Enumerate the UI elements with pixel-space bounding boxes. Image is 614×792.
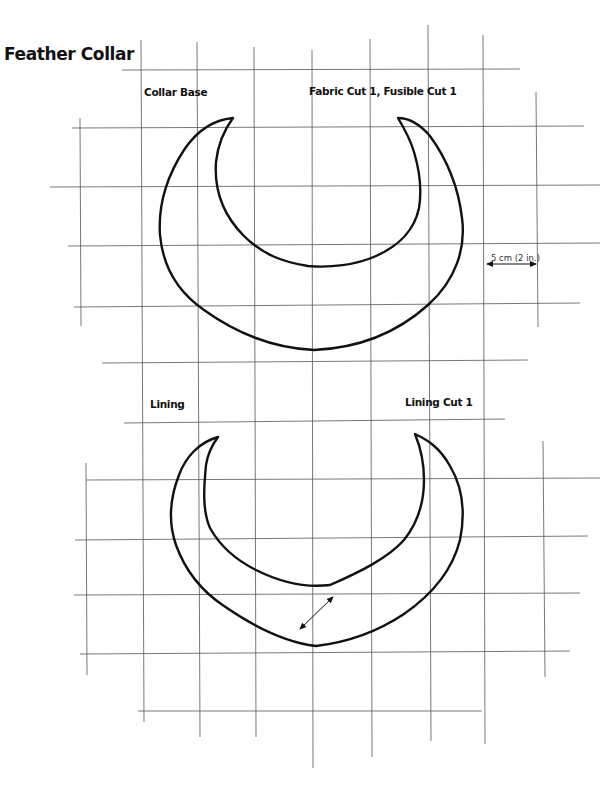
- grid-line: [543, 441, 545, 677]
- grid-line: [86, 478, 600, 480]
- grid-line: [86, 463, 87, 675]
- piece-name-lining: Lining: [150, 398, 185, 410]
- lower-grid: [74, 419, 600, 711]
- scale-label: 5 cm (2 in.): [491, 253, 540, 263]
- grid-line: [483, 35, 485, 744]
- cut-instructions-lining: Lining Cut 1: [405, 396, 473, 408]
- pattern-canvas: 5 cm (2 in.): [0, 0, 614, 792]
- lining-outline: [171, 434, 463, 646]
- grid-line: [254, 47, 256, 737]
- grid-line: [75, 536, 588, 540]
- grid-line: [141, 40, 144, 722]
- piece-name-collar-base: Collar Base: [144, 86, 207, 98]
- grid-line: [68, 243, 600, 246]
- scale-indicator: 5 cm (2 in.): [487, 253, 540, 264]
- grid-line: [50, 185, 600, 187]
- grid-line: [536, 92, 538, 327]
- collar-base-outline: [160, 118, 463, 350]
- grid-line: [102, 360, 528, 363]
- cut-instructions-collar-base: Fabric Cut 1, Fusible Cut 1: [309, 85, 457, 97]
- grid-line: [122, 69, 520, 70]
- grid-line: [80, 651, 570, 654]
- grid-line: [72, 126, 584, 128]
- grid-line: [80, 118, 81, 326]
- grid-line: [428, 25, 431, 741]
- grid-line: [197, 42, 200, 737]
- grid-line: [312, 50, 313, 768]
- grain-line-arrow: [300, 597, 333, 629]
- grid-line: [124, 419, 505, 423]
- upper-grid: [50, 69, 600, 363]
- grid-line: [74, 303, 580, 307]
- page-title: Feather Collar: [4, 44, 134, 64]
- grid-line: [74, 593, 580, 595]
- grid-line: [370, 39, 372, 757]
